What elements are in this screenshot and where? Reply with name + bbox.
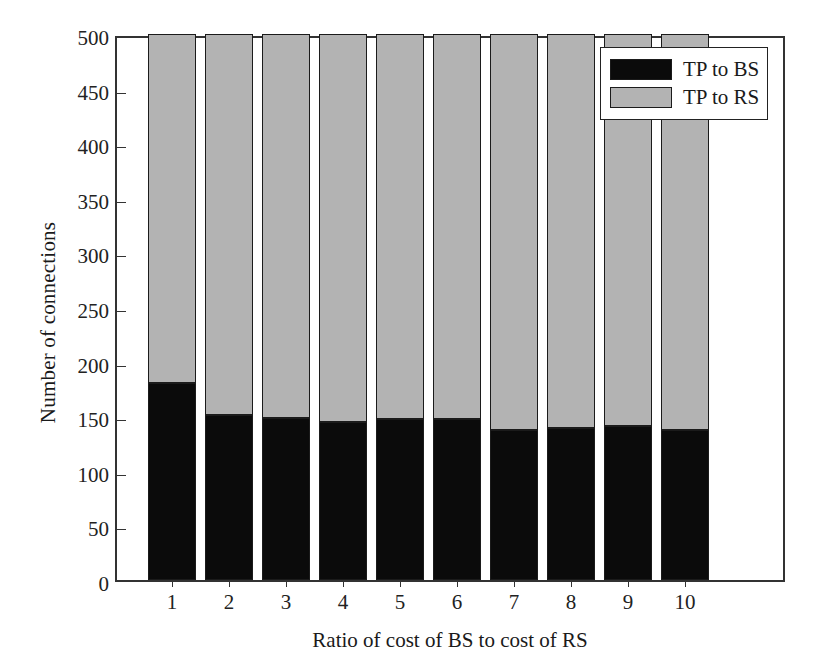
- bar-7[interactable]: [490, 38, 538, 580]
- x-tick-label: 4: [338, 590, 349, 615]
- black-swatch-icon: [610, 59, 672, 80]
- bar-8[interactable]: [547, 38, 595, 580]
- y-tick-mark: [117, 311, 126, 312]
- x-tick-label: 10: [675, 590, 696, 615]
- x-tick-mark: [343, 580, 344, 587]
- legend-item-tp-to-bs[interactable]: TP to BS: [610, 55, 758, 83]
- bar-3[interactable]: [262, 38, 310, 580]
- x-tick-mark: [229, 580, 230, 587]
- chart-legend: TP to BS TP to RS: [600, 47, 768, 120]
- bar-2[interactable]: [205, 38, 253, 580]
- bar-segment-tp-to-rs: [433, 34, 481, 419]
- x-tick-mark: [172, 580, 173, 587]
- legend-label-tp-to-rs: TP to RS: [683, 85, 759, 110]
- x-tick-label: 7: [509, 590, 520, 615]
- bar-segment-tp-to-bs: [433, 419, 481, 580]
- x-tick-mark: [685, 580, 686, 587]
- y-axis-title: Number of connections: [36, 43, 61, 603]
- x-tick-label: 6: [452, 590, 463, 615]
- y-tick-mark: [117, 202, 126, 203]
- bar-segment-tp-to-rs: [490, 34, 538, 430]
- x-tick-label: 1: [167, 590, 178, 615]
- y-tick-mark: [117, 475, 126, 476]
- y-tick-mark: [117, 529, 126, 530]
- y-tick-label: 50: [88, 517, 109, 542]
- y-tick-label: 150: [78, 408, 110, 433]
- legend-label-tp-to-bs: TP to BS: [683, 57, 759, 82]
- y-tick-mark: [117, 420, 126, 421]
- gray-swatch-icon: [610, 87, 672, 108]
- x-axis-title: Ratio of cost of BS to cost of RS: [115, 628, 785, 653]
- bar-5[interactable]: [376, 38, 424, 580]
- y-tick-mark: [117, 366, 126, 367]
- x-tick-mark: [628, 580, 629, 587]
- bar-segment-tp-to-bs: [547, 428, 595, 580]
- legend-item-tp-to-rs[interactable]: TP to RS: [610, 83, 758, 111]
- x-tick-mark: [286, 580, 287, 587]
- x-tick-mark: [457, 580, 458, 587]
- bar-segment-tp-to-rs: [262, 34, 310, 418]
- x-tick-mark: [571, 580, 572, 587]
- x-tick-label: 9: [623, 590, 634, 615]
- bar-segment-tp-to-bs: [319, 422, 367, 580]
- bar-segment-tp-to-bs: [661, 430, 709, 580]
- x-tick-label: 8: [566, 590, 577, 615]
- y-tick-mark: [117, 147, 126, 148]
- y-tick-label: 100: [78, 462, 110, 487]
- y-tick-label: 500: [78, 26, 110, 51]
- bar-segment-tp-to-bs: [148, 383, 196, 580]
- chart-figure: Number of connections 050100150200250300…: [0, 0, 816, 667]
- y-tick-mark: [117, 256, 126, 257]
- bar-segment-tp-to-rs: [319, 34, 367, 422]
- y-tick-label: 400: [78, 135, 110, 160]
- y-tick-mark: [117, 93, 126, 94]
- x-tick-label: 3: [281, 590, 292, 615]
- y-tick-label: 200: [78, 353, 110, 378]
- bar-segment-tp-to-rs: [376, 34, 424, 419]
- bar-segment-tp-to-rs: [148, 34, 196, 383]
- y-tick-label: 250: [78, 299, 110, 324]
- y-tick-label: 0: [99, 572, 110, 597]
- x-tick-mark: [400, 580, 401, 587]
- bar-segment-tp-to-bs: [376, 419, 424, 580]
- bar-segment-tp-to-rs: [205, 34, 253, 415]
- y-tick-label: 450: [78, 80, 110, 105]
- x-tick-label: 5: [395, 590, 406, 615]
- bar-segment-tp-to-bs: [262, 418, 310, 580]
- y-tick-label: 350: [78, 189, 110, 214]
- bar-6[interactable]: [433, 38, 481, 580]
- x-tick-label: 2: [224, 590, 235, 615]
- y-tick-label: 300: [78, 244, 110, 269]
- bar-4[interactable]: [319, 38, 367, 580]
- bar-1[interactable]: [148, 38, 196, 580]
- bar-segment-tp-to-bs: [490, 430, 538, 580]
- bar-segment-tp-to-bs: [604, 426, 652, 580]
- x-tick-mark: [514, 580, 515, 587]
- bar-segment-tp-to-rs: [547, 34, 595, 428]
- bar-segment-tp-to-bs: [205, 415, 253, 580]
